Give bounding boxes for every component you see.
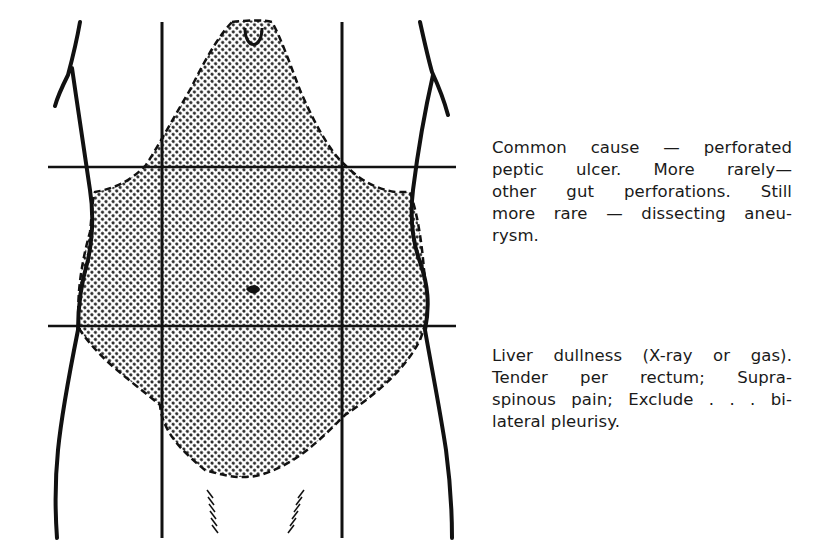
caption-signs: Liver dullness (X-ray or gas). Tender pe…	[492, 345, 792, 433]
caption-line: Liver dullness (X-ray or gas).	[492, 345, 792, 367]
caption-line: peptic ulcer. More rarely—	[492, 159, 792, 181]
groin-hatch-left	[207, 490, 218, 533]
caption-line: Tender per rectum; Supra-	[492, 367, 792, 389]
caption-causes: Common cause — perforated peptic ulcer. …	[492, 137, 792, 247]
caption-line: spinous pain; Exclude . . . bi-	[492, 389, 792, 411]
caption-line: other gut perforations. Still	[492, 181, 792, 203]
caption-line: Common cause — perforated	[492, 137, 792, 159]
groin-hatch-right	[288, 490, 304, 533]
shaded-pain-region	[78, 21, 427, 478]
caption-line: more rare — dissecting aneu-	[492, 203, 792, 225]
caption-line: lateral pleurisy.	[492, 411, 792, 433]
abdomen-diagram	[0, 0, 480, 549]
caption-line: rysm.	[492, 225, 792, 247]
